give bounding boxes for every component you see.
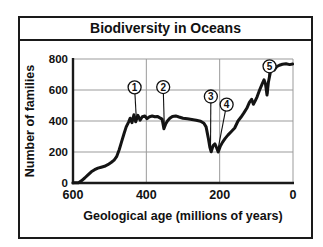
chart-title: Biodiversity in Oceans bbox=[20, 18, 311, 41]
x-tick-400: 400 bbox=[136, 188, 157, 202]
y-tick-400: 400 bbox=[49, 115, 68, 127]
y-axis-title: Number of families bbox=[23, 65, 37, 178]
chart-area: 02004006008006004002000Geological age (m… bbox=[20, 41, 311, 239]
x-tick-600: 600 bbox=[63, 188, 84, 202]
event-label-5: 5 bbox=[267, 61, 273, 72]
x-tick-0: 0 bbox=[290, 188, 297, 202]
x-tick-200: 200 bbox=[209, 188, 230, 202]
diversity-curve bbox=[73, 64, 293, 183]
y-tick-600: 600 bbox=[49, 84, 68, 96]
y-tick-800: 800 bbox=[49, 53, 68, 65]
x-axis-title: Geological age (millions of years) bbox=[83, 209, 282, 223]
event-label-3: 3 bbox=[208, 91, 214, 102]
figure-panel: Biodiversity in Oceans 02004006008006004… bbox=[18, 16, 313, 239]
event-label-4: 4 bbox=[224, 99, 230, 110]
chart-canvas: 02004006008006004002000Geological age (m… bbox=[20, 41, 311, 239]
event-label-1: 1 bbox=[132, 82, 138, 93]
event-label-2: 2 bbox=[160, 82, 166, 93]
y-tick-200: 200 bbox=[49, 146, 68, 158]
